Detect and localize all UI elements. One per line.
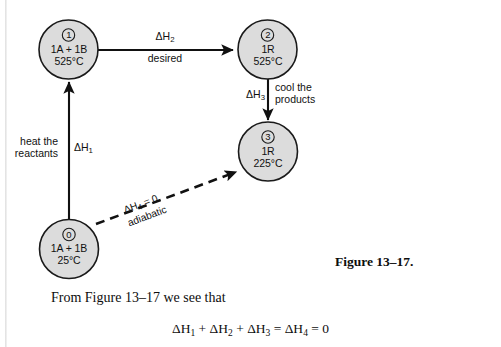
prose-intro: From Figure 13–17 we see that — [51, 290, 226, 306]
state-2-composition: 1R — [218, 43, 318, 56]
edge-delta-h3-description-line2: products — [275, 93, 315, 106]
eq-sub-1: 1 — [190, 328, 195, 338]
eq-sub-3: 3 — [266, 328, 271, 338]
eq-op-3: = — [270, 321, 284, 336]
enthalpy-sum-equation: ΔH1 + ΔH2 + ΔH3 = ΔH4 = 0 — [0, 321, 501, 337]
eq-op-2: + — [233, 321, 247, 336]
eq-op-1: + — [195, 321, 209, 336]
eq-sub-2: 2 — [228, 328, 233, 338]
eq-sub-4: 4 — [303, 328, 308, 338]
edge-delta-h1-symbol: ΔH1 — [74, 141, 93, 156]
state-1-temperature: 525°C — [19, 55, 119, 68]
figure-caption: Figure 13–17. — [335, 254, 414, 270]
state-3-composition: 1R — [218, 145, 318, 158]
figure-page: 1 1A + 1B 525°C 2 1R 525°C 3 1R 225°C 0 … — [0, 0, 501, 347]
eq-term-4: ΔH — [285, 321, 303, 336]
state-1-composition: 1A + 1B — [19, 43, 119, 56]
edge-delta-h1-description-line2: reactants — [0, 147, 58, 160]
edge-delta-h1-subscript: 1 — [89, 146, 93, 155]
state-0-index: 0 — [54, 230, 84, 240]
state-0-composition: 1A + 1B — [19, 242, 119, 255]
eq-term-2: ΔH — [210, 321, 228, 336]
eq-op-4: = 0 — [308, 321, 329, 336]
state-2-index: 2 — [253, 30, 283, 40]
edge-delta-h1-symbol-text: ΔH — [74, 141, 89, 153]
edge-delta-h3-description-line1: cool the — [275, 81, 312, 94]
edge-delta-h2-description: desired — [120, 52, 210, 65]
edge-delta-h3-symbol: ΔH3 — [213, 88, 265, 103]
edge-delta-h2-symbol: ΔH2 — [120, 30, 210, 45]
edge-delta-h3-subscript: 3 — [261, 93, 265, 102]
eq-term-1: ΔH — [172, 321, 190, 336]
state-0-temperature: 25°C — [19, 254, 119, 267]
edge-delta-h2-symbol-text: ΔH — [156, 30, 171, 42]
state-3-temperature: 225°C — [218, 157, 318, 170]
state-3-index: 3 — [253, 132, 283, 142]
state-1-index: 1 — [54, 30, 84, 40]
state-2-temperature: 525°C — [218, 55, 318, 68]
edge-delta-h2-subscript: 2 — [170, 35, 174, 44]
eq-term-3: ΔH — [247, 321, 265, 336]
edge-delta-h1-description-line1: heat the — [0, 135, 58, 148]
edge-delta-h3-symbol-text: ΔH — [246, 88, 261, 100]
